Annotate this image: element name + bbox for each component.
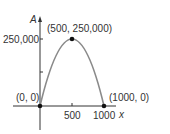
x-tick-label-500: 500 xyxy=(64,110,81,121)
parabola-curve xyxy=(40,39,104,106)
y-axis-arrow-icon xyxy=(38,16,42,22)
y-axis-label: A xyxy=(29,14,37,25)
point-vertex xyxy=(70,37,75,42)
y-tick-label: 250,000 xyxy=(3,34,40,45)
point-label-origin: (0, 0) xyxy=(16,92,39,103)
point-label-vertex: (500, 250,000) xyxy=(47,23,112,34)
point-end xyxy=(102,104,107,109)
point-origin xyxy=(38,104,43,109)
chart: A x 250,000 500 1000 (0, 0) (500, 250,00… xyxy=(0,0,170,134)
x-axis-label: x xyxy=(118,109,125,120)
x-tick-label-1000: 1000 xyxy=(93,110,116,121)
point-label-end: (1000, 0) xyxy=(109,92,149,103)
